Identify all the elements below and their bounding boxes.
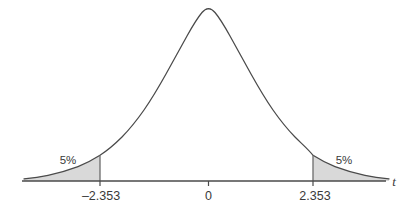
- left-tail-percent-label: 5%: [60, 154, 77, 166]
- x-axis-variable-label: t: [392, 174, 396, 189]
- x-tick-label-right: 2.353: [299, 189, 330, 203]
- t-distribution-chart: 5% 5% –2.353 0 2.353 t: [0, 0, 415, 213]
- x-tick-label-center: 0: [205, 189, 212, 203]
- density-curve: [24, 9, 389, 179]
- right-tail-percent-label: 5%: [336, 154, 353, 166]
- x-tick-label-left: –2.353: [82, 189, 120, 203]
- chart-canvas: 5% 5% –2.353 0 2.353 t: [0, 0, 415, 213]
